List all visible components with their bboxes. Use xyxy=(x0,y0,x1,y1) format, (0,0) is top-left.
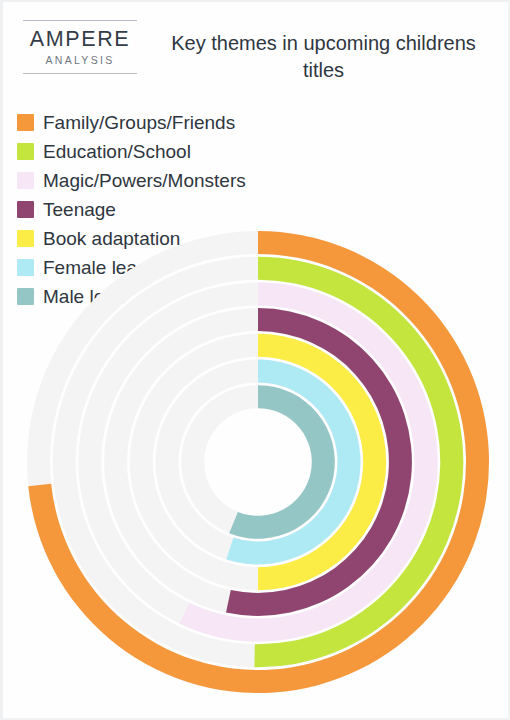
ampere-analysis-logo: AMPERE ANALYSIS xyxy=(21,16,139,74)
page-title: Key themes in upcoming childrens titles xyxy=(151,16,496,84)
logo-rule-bottom xyxy=(23,73,137,74)
slide-page: AMPERE ANALYSIS Key themes in upcoming c… xyxy=(0,0,510,720)
legend-item[interactable]: Magic/Powers/Monsters xyxy=(17,166,317,195)
legend-item-label: Magic/Powers/Monsters xyxy=(43,170,246,192)
legend-swatch-icon xyxy=(17,172,34,189)
radial-bar-chart-svg xyxy=(3,218,510,720)
legend-item-label: Family/Groups/Friends xyxy=(43,112,235,134)
radial-bar-chart xyxy=(3,218,510,720)
slide-header: AMPERE ANALYSIS Key themes in upcoming c… xyxy=(3,16,502,84)
legend-column-left: Family/Groups/FriendsEducation/SchoolMag… xyxy=(17,108,317,224)
legend-item-label: Education/School xyxy=(43,141,191,163)
legend-item[interactable]: Family/Groups/Friends xyxy=(17,108,317,137)
legend-swatch-icon xyxy=(17,114,34,131)
logo-wordmark: AMPERE xyxy=(21,21,139,53)
legend-swatch-icon xyxy=(17,201,34,218)
logo-subtitle: ANALYSIS xyxy=(21,53,139,73)
legend-item[interactable]: Education/School xyxy=(17,137,317,166)
legend-swatch-icon xyxy=(17,143,34,160)
